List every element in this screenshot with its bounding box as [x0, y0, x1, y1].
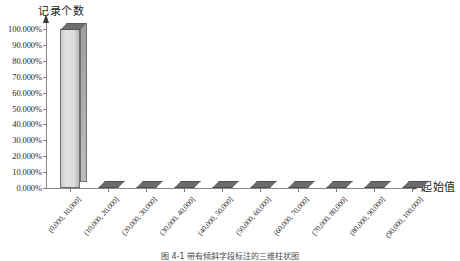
x-tick-mark — [412, 188, 413, 192]
x-tick-mark — [298, 188, 299, 192]
bar-zero-top-face — [212, 181, 239, 188]
x-tick-mark — [260, 188, 261, 192]
bar-zero-top-face — [174, 181, 201, 188]
bar-zero-top-face — [326, 181, 353, 188]
bar-zero-top-face — [136, 181, 163, 188]
x-tick-mark — [222, 188, 223, 192]
x-tick-mark — [374, 188, 375, 192]
bars-layer — [0, 0, 460, 261]
x-tick-mark — [336, 188, 337, 192]
bar-zero-top-face — [402, 181, 429, 188]
figure-caption: 图 4-1 带有倾斜字段标注的三维柱状图 — [0, 250, 460, 261]
bar-zero-top-face — [250, 181, 277, 188]
bar-zero-top-face — [288, 181, 315, 188]
x-tick-mark — [108, 188, 109, 192]
chart-figure: 记录个数 起始值 100.000%90.000%80.000%70.000%60… — [0, 0, 460, 261]
bar-zero-top-face — [364, 181, 391, 188]
bar-side-face — [80, 23, 87, 182]
x-tick-mark — [184, 188, 185, 192]
x-tick-mark — [70, 188, 71, 192]
x-tick-mark — [146, 188, 147, 192]
bar-front-face — [60, 29, 80, 188]
bar-zero-top-face — [98, 181, 125, 188]
